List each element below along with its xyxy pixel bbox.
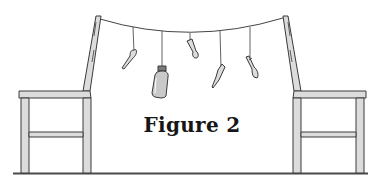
hanging-spoon-1 [122, 27, 137, 69]
figure-drawing [0, 0, 384, 187]
right-chair [283, 16, 366, 173]
string [100, 18, 283, 32]
figure-caption: Figure 2 [0, 113, 384, 137]
hanging-spoon-2 [187, 33, 198, 58]
hanging-knife [212, 31, 225, 88]
hanging-fork [246, 27, 258, 78]
left-chair-seat [19, 91, 91, 98]
hanging-bottle [152, 31, 168, 98]
figure-illustration [0, 0, 384, 187]
left-chair [19, 16, 101, 173]
right-chair-backrest [283, 16, 301, 91]
right-chair-seat [293, 91, 366, 98]
left-chair-backrest [83, 16, 101, 91]
